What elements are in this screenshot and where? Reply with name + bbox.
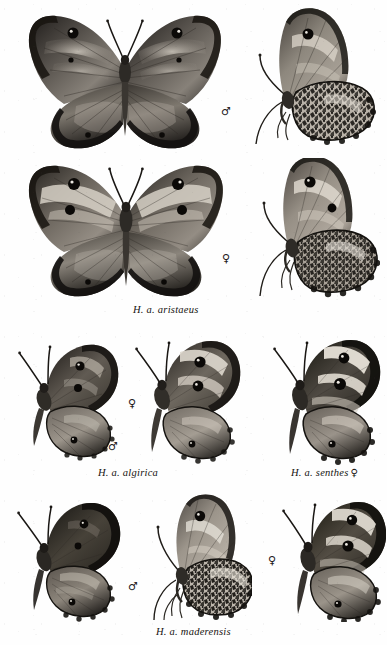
caption-algirica-text: H. a. algirica	[98, 467, 158, 478]
caption-senthes-text: H. a. senthes	[291, 467, 349, 478]
specimen-maderensis-male-dorsal	[12, 496, 124, 622]
male-symbol-algirica: ♂	[108, 441, 118, 452]
specimen-maderensis-female-dorsal	[278, 496, 386, 622]
female-symbol-row-2: ♀	[222, 253, 230, 264]
specimen-aristaeus-male-dorsal	[20, 8, 230, 156]
specimen-algirica-female-dorsal	[128, 334, 246, 466]
caption-maderensis: H. a. maderensis	[156, 626, 231, 637]
caption-senthes: H. a. senthes♀	[291, 467, 358, 478]
illustration-plate: ♂	[0, 0, 387, 645]
male-symbol-maderensis: ♂	[128, 581, 138, 592]
specimen-aristaeus-female-dorsal	[20, 160, 232, 300]
caption-aristaeus: H. a. aristaeus	[133, 304, 199, 315]
caption-algirica: H. a. algirica	[98, 467, 158, 478]
caption-senthes-female-symbol: ♀	[349, 467, 359, 478]
female-symbol-algirica: ♀	[128, 398, 136, 409]
male-symbol-row-1: ♂	[221, 106, 231, 117]
specimen-maderensis-male-ventral	[148, 494, 252, 622]
caption-aristaeus-text: H. a. aristaeus	[133, 304, 199, 315]
specimen-aristaeus-female-ventral	[240, 158, 380, 300]
specimen-senthes-female-dorsal	[268, 334, 384, 466]
specimen-aristaeus-male-ventral	[238, 8, 378, 148]
caption-maderensis-text: H. a. maderensis	[156, 626, 231, 637]
female-symbol-maderensis: ♀	[268, 555, 276, 566]
